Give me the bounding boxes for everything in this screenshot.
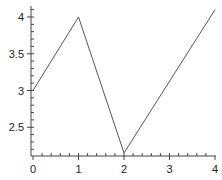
line-chart: 2.533.54 01234 (0, 0, 222, 180)
y-tick-label: 2.5 (9, 121, 24, 133)
x-tick-label: 2 (121, 163, 127, 175)
x-tick-label: 4 (212, 163, 218, 175)
x-tick-label: 0 (30, 163, 36, 175)
y-tick-label: 3 (18, 85, 24, 97)
y-tick-label: 4 (18, 11, 24, 23)
x-axis: 01234 (30, 153, 218, 175)
x-tick-label: 3 (166, 163, 172, 175)
x-tick-label: 1 (75, 163, 81, 175)
data-line (33, 10, 215, 153)
y-axis: 2.533.54 (9, 6, 34, 156)
y-tick-label: 3.5 (9, 48, 24, 60)
